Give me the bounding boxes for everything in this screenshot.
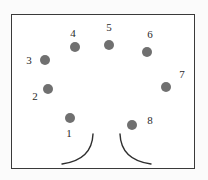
point-dot-4 [70,42,80,52]
point-dot-1 [65,113,75,123]
point-dot-2 [43,84,53,94]
arc-group [62,134,151,164]
left-arc [62,134,93,164]
point-label-4: 4 [70,28,76,39]
point-label-2: 2 [32,91,38,102]
point-dot-6 [142,47,152,57]
diagram-canvas [0,0,208,180]
point-label-6: 6 [147,29,153,40]
point-label-7: 7 [179,69,185,80]
right-arc [120,134,151,164]
point-label-8: 8 [147,115,153,126]
point-dot-3 [40,55,50,65]
point-label-1: 1 [66,128,72,139]
point-label-5: 5 [106,22,112,33]
point-dot-7 [161,82,171,92]
point-dot-8 [127,120,137,130]
point-dot-5 [104,40,114,50]
point-label-3: 3 [26,55,32,66]
diagram-figure: 12345678 [0,0,208,180]
